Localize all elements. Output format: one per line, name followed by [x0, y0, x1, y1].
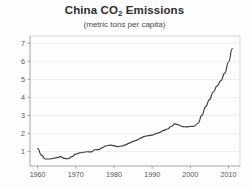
gridlines — [30, 43, 240, 151]
x-tick-label: 1980 — [106, 170, 122, 179]
y-tick-label: 5 — [21, 75, 25, 84]
chart-figure: China CO2 Emissions (metric tons per cap… — [0, 0, 249, 187]
y-tick-label: 3 — [21, 111, 25, 120]
y-tick-label: 7 — [21, 39, 25, 48]
y-tick-label: 4 — [21, 93, 25, 102]
x-tick-label: 2010 — [221, 170, 237, 179]
x-axis-ticks: 196019701980199020002010 — [30, 166, 237, 179]
data-series — [38, 48, 233, 159]
y-tick-label: 6 — [21, 57, 25, 66]
y-tick-label: 2 — [21, 129, 25, 138]
x-tick-label: 1970 — [68, 170, 84, 179]
x-tick-label: 2000 — [182, 170, 198, 179]
x-tick-label: 1960 — [30, 170, 46, 179]
line-chart-svg: 1234567 196019701980199020002010 — [0, 0, 249, 187]
plot-area: 1234567 196019701980199020002010 — [0, 0, 249, 187]
y-axis-ticks: 1234567 — [21, 39, 30, 156]
x-tick-label: 1990 — [144, 170, 160, 179]
emissions-line — [38, 48, 233, 159]
y-tick-label: 1 — [21, 147, 25, 156]
